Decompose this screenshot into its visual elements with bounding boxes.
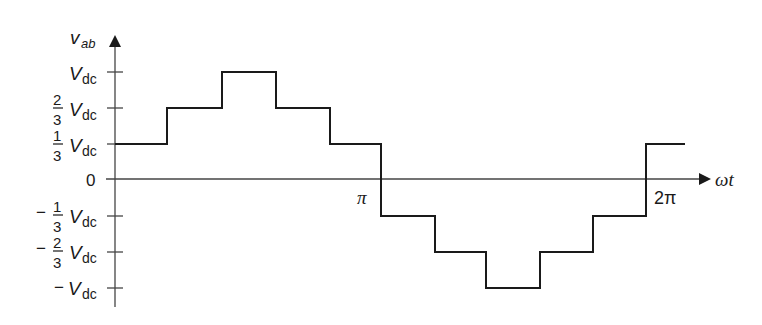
svg-text:dc: dc [82,71,97,87]
tick-label-pi: π [357,187,367,208]
svg-text:V: V [68,278,83,299]
svg-text:3: 3 [53,147,61,164]
tick-label-neg-vdc: − V dc [54,278,97,302]
tick-label-vdc: V dc [69,63,97,87]
svg-text:1: 1 [53,127,61,144]
svg-text:3: 3 [53,254,61,271]
svg-text:dc: dc [82,107,97,123]
x-axis-label: ωt [715,169,734,190]
svg-text:dc: dc [82,286,97,302]
tick-label-neg-two-thirds: − 2 3 V dc [36,234,97,271]
svg-text:−: − [36,239,46,258]
y-axis-label: v ab [70,27,95,51]
svg-text:3: 3 [53,218,61,235]
waveform-diagram: v ab V dc 2 3 V dc 1 3 V dc 0 − 1 3 V dc… [0,0,762,325]
tick-label-one-third: 1 3 V dc [53,127,97,164]
x-axis-arrow-icon [699,173,711,185]
svg-text:2: 2 [53,234,61,251]
svg-text:dc: dc [82,250,97,266]
tick-label-zero: 0 [86,171,95,190]
tick-label-neg-one-third: − 1 3 V dc [36,198,97,235]
y-axis-arrow-icon [109,35,121,47]
svg-text:2: 2 [53,91,61,108]
svg-text:dc: dc [82,214,97,230]
svg-text:1: 1 [53,198,61,215]
svg-text:ab: ab [81,36,95,51]
svg-text:−: − [54,278,64,297]
tick-label-two-pi: 2π [654,188,676,208]
svg-text:−: − [36,203,46,222]
svg-text:3: 3 [53,111,61,128]
svg-text:dc: dc [82,143,97,159]
svg-text:v: v [70,27,81,48]
stepped-waveform [115,72,685,288]
tick-label-two-thirds: 2 3 V dc [53,91,97,128]
